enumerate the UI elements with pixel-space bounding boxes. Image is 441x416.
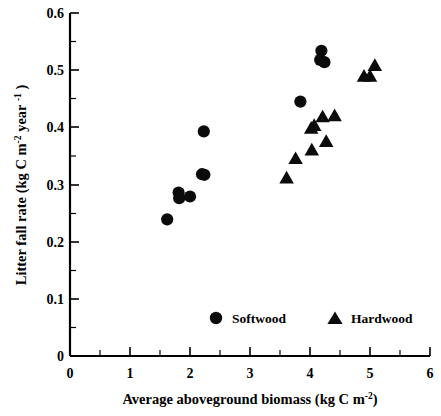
svg-text:Average aboveground biomass (k: Average aboveground biomass (kg C m-2) [122,391,377,408]
y-tick-label: 0.5 [47,63,65,78]
chart-svg: 0.6 0.5 0.4 0.3 0.2 0.1 0 0 1 2 3 4 5 6 [0,0,441,416]
scatter-plot-figure: 0.6 0.5 0.4 0.3 0.2 0.1 0 0 1 2 3 4 5 6 [0,0,441,416]
x-axis-title: Average aboveground biomass (kg C m-2) [122,391,377,408]
chart-legend: Softwood Hardwood [210,311,413,326]
x-tick-label: 4 [307,366,314,381]
x-tick-label: 0 [67,366,74,381]
y-axis-title-part2: year [13,101,29,135]
data-point-softwood [184,190,196,202]
x-axis-title-main: Average aboveground biomass (kg C m [122,391,364,408]
x-tick-label: 3 [247,366,254,381]
y-tick-label: 0.6 [47,6,65,21]
x-tick-label: 6 [427,366,434,381]
legend-softwood-label: Softwood [232,311,286,326]
y-axis-title-part1: Litter fall rate (kg C m [13,143,30,285]
x-axis-major-ticks [70,347,430,356]
data-point-hardwood [368,58,383,71]
data-markers-layer [161,45,382,226]
data-point-hardwood [319,134,334,147]
y-axis-title: Litter fall rate (kg C m-2 year -1 ) [13,85,30,286]
data-point-softwood [173,192,185,204]
x-tick-label: 1 [127,366,134,381]
x-tick-label: 5 [367,366,374,381]
legend-hardwood-marker-icon [327,312,342,325]
y-tick-label: 0.2 [47,235,65,250]
svg-text:Litter fall rate (kg C m-2 yea: Litter fall rate (kg C m-2 year -1 ) [13,85,30,286]
y-tick-label: 0.3 [47,178,65,193]
data-point-hardwood [288,151,303,164]
y-tick-label: 0 [57,349,64,364]
data-point-softwood [198,169,210,181]
legend-softwood-marker-icon [210,312,222,324]
legend-hardwood-label: Hardwood [351,311,413,326]
data-point-hardwood [305,143,320,156]
y-axis-tick-labels: 0.6 0.5 0.4 0.3 0.2 0.1 0 [47,6,65,364]
data-point-hardwood [279,171,294,184]
x-tick-label: 2 [187,366,194,381]
data-point-hardwood [315,110,330,123]
data-point-hardwood [327,109,342,122]
x-axis-tick-labels: 0 1 2 3 4 5 6 [67,366,434,381]
data-point-softwood [198,125,210,137]
y-tick-label: 0.1 [47,292,65,307]
x-axis-title-end: ) [373,391,378,408]
data-point-softwood [161,213,173,225]
y-axis-major-ticks [70,13,79,356]
y-axis-title-part3: ) [13,85,30,94]
y-tick-label: 0.4 [47,120,65,135]
data-point-softwood [294,96,306,108]
data-point-softwood [318,56,330,68]
